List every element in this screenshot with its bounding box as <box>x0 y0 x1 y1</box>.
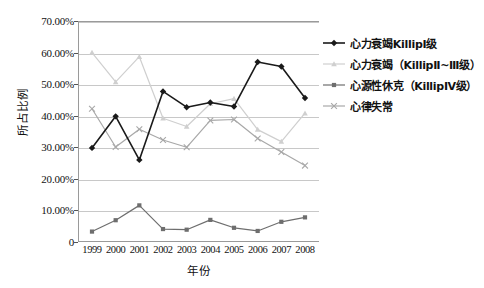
series-layer <box>78 21 319 242</box>
y-axis-tick-mark <box>74 53 78 54</box>
data-point-triangle <box>231 96 237 101</box>
series-1 <box>89 59 308 163</box>
legend-marker-square-icon <box>322 78 346 92</box>
data-point-square <box>208 218 212 222</box>
series-line <box>92 53 305 142</box>
data-point-cross <box>302 163 308 169</box>
legend-marker-cross-icon <box>322 99 346 113</box>
data-point-square <box>114 218 118 222</box>
y-axis-tick-mark <box>74 210 78 211</box>
x-axis-tick-label: 2007 <box>272 244 291 255</box>
legend-label: 心源性休克（KillipⅣ级） <box>350 77 477 93</box>
data-point-triangle <box>137 54 143 59</box>
series-3 <box>90 203 307 233</box>
x-axis-tick-label: 2006 <box>248 244 267 255</box>
y-axis-tick-mark <box>74 116 78 117</box>
x-axis-tick-label: 2005 <box>224 244 243 255</box>
y-axis-tick-label: 50.00% <box>41 78 74 90</box>
data-point-triangle <box>302 110 308 115</box>
legend-label: 心力衰竭KillipⅠ级 <box>350 35 437 51</box>
legend-item-4[interactable]: 心律失常 <box>322 96 484 116</box>
data-point-square <box>232 226 236 230</box>
data-point-square <box>161 227 165 231</box>
x-axis-tick-label: 1999 <box>82 244 101 255</box>
legend-item-2[interactable]: 心力衰竭（KillipⅡ~Ⅲ级） <box>322 54 484 74</box>
legend-marker-triangle-icon <box>322 57 346 71</box>
data-point-square <box>137 203 141 207</box>
data-point-cross <box>113 144 119 150</box>
legend-marker-diamond-icon <box>322 36 346 50</box>
x-axis-tick-label: 2002 <box>153 244 172 255</box>
legend-item-1[interactable]: 心力衰竭KillipⅠ级 <box>322 33 484 53</box>
x-axis-tick-label: 2004 <box>201 244 220 255</box>
series-line <box>92 62 305 160</box>
data-point-cross <box>136 126 142 132</box>
legend-label: 心力衰竭（KillipⅡ~Ⅲ级） <box>350 56 481 72</box>
data-point-square <box>90 229 94 233</box>
data-point-triangle <box>89 50 95 55</box>
y-axis-tick-label: 20.00% <box>41 173 74 185</box>
y-axis-tick-label: 30.00% <box>41 141 74 153</box>
x-axis-ticks: 1999200020012002200320042005200620072008 <box>78 244 319 260</box>
chart-container: 010.00%20.00%30.00%40.00%50.00%60.00%70.… <box>0 0 484 288</box>
y-axis-ticks: 010.00%20.00%30.00%40.00%50.00%60.00%70.… <box>0 21 74 242</box>
y-axis-tick-mark <box>74 242 78 243</box>
legend-item-3[interactable]: 心源性休克（KillipⅣ级） <box>322 75 484 95</box>
data-point-diamond <box>136 157 142 163</box>
data-point-square <box>332 83 336 87</box>
x-axis-title: 年份 <box>78 262 319 278</box>
data-point-triangle <box>160 115 166 120</box>
x-axis-tick-label: 2000 <box>106 244 125 255</box>
y-axis-tick-label: 70.00% <box>41 15 74 27</box>
data-point-square <box>303 215 307 219</box>
legend-label: 心律失常 <box>350 98 393 114</box>
data-point-diamond <box>331 40 337 46</box>
y-axis-tick-mark <box>74 21 78 22</box>
y-axis-tick-label: 10.00% <box>41 204 74 216</box>
data-point-square <box>256 229 260 233</box>
data-point-diamond <box>231 103 237 109</box>
series-2 <box>89 50 308 144</box>
data-point-cross <box>255 136 261 142</box>
x-axis-tick-label: 2003 <box>177 244 196 255</box>
x-axis-tick-label: 2008 <box>295 244 314 255</box>
x-axis-tick-label: 2001 <box>130 244 149 255</box>
y-axis-tick-mark <box>74 84 78 85</box>
data-point-square <box>279 220 283 224</box>
data-point-cross <box>89 106 95 112</box>
data-point-diamond <box>254 59 260 65</box>
data-point-cross <box>278 149 284 155</box>
series-line <box>92 205 305 231</box>
y-axis-tick-mark <box>74 179 78 180</box>
y-axis-title: 所占比例 <box>14 80 30 144</box>
data-point-square <box>185 228 189 232</box>
chart-legend: 心力衰竭KillipⅠ级心力衰竭（KillipⅡ~Ⅲ级）心源性休克（Killip… <box>322 33 484 117</box>
y-axis-tick-label: 40.00% <box>41 110 74 122</box>
data-point-diamond <box>207 99 213 105</box>
y-axis-tick-label: 60.00% <box>41 47 74 59</box>
y-axis-tick-mark <box>74 147 78 148</box>
